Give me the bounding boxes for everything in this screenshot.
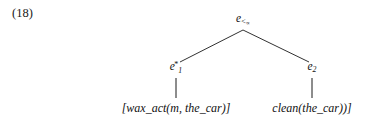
tree-node-e2: e2 [307, 60, 316, 74]
root-relation-inner-symbol: ∝ [246, 20, 250, 27]
tree-node-root: e<∝ [236, 12, 250, 27]
e1-subscript-index: 1 [178, 66, 182, 75]
root-subscript-relation: <∝ [241, 17, 250, 26]
branch-right [243, 30, 309, 62]
tree-node-e1: e*1 [170, 60, 183, 75]
figure-canvas: (18) e<∝ e*1 e2 [wax_act(m, the_car)] cl… [0, 0, 369, 124]
leaf-text-right: clean(the_car))] [272, 101, 351, 116]
branch-left [180, 30, 243, 62]
leaf-text-left: [wax_act(m, the_car)] [122, 101, 231, 116]
e2-subscript-index: 2 [313, 65, 317, 74]
example-number: (18) [12, 6, 33, 21]
